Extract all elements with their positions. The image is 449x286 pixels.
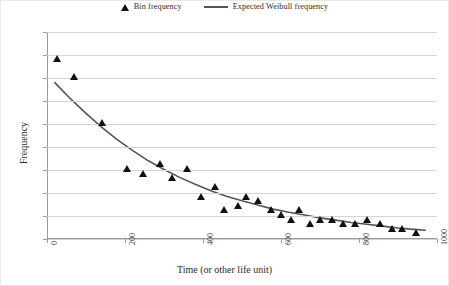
data-point-marker (287, 216, 295, 223)
data-point-marker (156, 160, 164, 167)
y-gridline (47, 239, 437, 240)
y-tick-mark (43, 147, 47, 148)
y-tick-mark (43, 216, 47, 217)
data-point-marker (70, 73, 78, 80)
data-point-marker (351, 220, 359, 227)
x-tick-mark (281, 239, 282, 243)
x-tick-label: 600 (284, 233, 293, 245)
data-point-marker (98, 119, 106, 126)
x-tick-label: 0 (50, 241, 59, 245)
y-axis-title: Frequency (18, 122, 29, 164)
data-point-marker (339, 220, 347, 227)
data-point-marker (168, 174, 176, 181)
data-point-marker (306, 220, 314, 227)
data-point-marker (316, 216, 324, 223)
triangle-marker-icon (121, 4, 129, 11)
data-point-marker (183, 165, 191, 172)
data-point-marker (328, 216, 336, 223)
data-point-marker (363, 216, 371, 223)
y-tick-mark (43, 124, 47, 125)
data-point-marker (295, 206, 303, 213)
x-tick-mark (125, 239, 126, 243)
x-tick-mark (47, 239, 48, 243)
y-gridline (47, 170, 437, 171)
data-point-marker (254, 197, 262, 204)
x-tick-label: 200 (128, 233, 137, 245)
data-point-marker (220, 206, 228, 213)
plot-area: 05101520253035404502004006008001000 (47, 32, 437, 239)
x-axis-title: Time (or other life unit) (0, 264, 449, 275)
y-tick-mark (43, 55, 47, 56)
data-point-marker (388, 225, 396, 232)
y-gridline (47, 55, 437, 56)
line-swatch-icon (204, 6, 228, 8)
y-tick-mark (43, 170, 47, 171)
y-tick-mark (43, 101, 47, 102)
legend-label-bin-frequency: Bin frequency (134, 3, 182, 11)
x-tick-label: 800 (362, 233, 371, 245)
data-point-marker (412, 229, 420, 236)
x-tick-mark (203, 239, 204, 243)
y-gridline (47, 32, 437, 33)
y-tick-mark (43, 193, 47, 194)
data-point-marker (211, 183, 219, 190)
y-gridline (47, 147, 437, 148)
data-point-marker (123, 165, 131, 172)
data-point-marker (398, 225, 406, 232)
data-point-marker (267, 206, 275, 213)
data-point-marker (197, 193, 205, 200)
y-gridline (47, 101, 437, 102)
chart-legend: Bin frequency Expected Weibull frequency (0, 3, 449, 11)
weibull-frequency-chart: Bin frequency Expected Weibull frequency… (0, 0, 449, 286)
y-gridline (47, 78, 437, 79)
data-point-marker (234, 202, 242, 209)
data-point-marker (277, 211, 285, 218)
y-tick-mark (43, 78, 47, 79)
x-tick-mark (359, 239, 360, 243)
y-tick-mark (43, 32, 47, 33)
x-tick-label: 400 (206, 233, 215, 245)
legend-label-weibull-frequency: Expected Weibull frequency (233, 3, 328, 11)
legend-item-weibull-frequency: Expected Weibull frequency (204, 3, 328, 11)
data-point-marker (139, 170, 147, 177)
data-point-marker (53, 55, 61, 62)
y-gridline (47, 216, 437, 217)
x-tick-mark (437, 239, 438, 243)
x-tick-label: 1000 (440, 229, 449, 245)
data-point-marker (242, 193, 250, 200)
data-point-marker (376, 220, 384, 227)
legend-item-bin-frequency: Bin frequency (121, 3, 182, 11)
